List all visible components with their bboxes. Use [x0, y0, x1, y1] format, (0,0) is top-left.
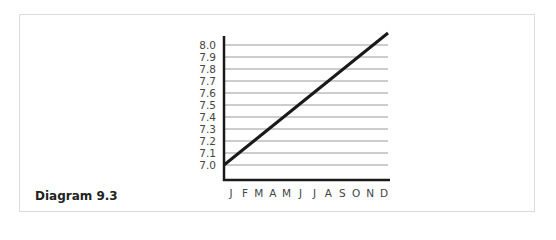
- y-tick-label: 7.8: [199, 63, 216, 75]
- x-tick-label: J: [312, 187, 316, 199]
- y-tick-label: 7.5: [199, 99, 216, 111]
- y-tick-label: 7.4: [199, 111, 216, 123]
- y-tick-label: 7.0: [199, 159, 216, 171]
- x-tick-label: J: [298, 187, 302, 199]
- y-tick-label: 7.9: [199, 51, 216, 63]
- x-tick-label: O: [352, 187, 360, 199]
- x-tick-label: F: [242, 187, 248, 199]
- x-tick-label: D: [380, 187, 388, 199]
- y-tick-label: 7.3: [199, 123, 216, 135]
- x-tick-label: M: [254, 187, 263, 199]
- x-tick-label: A: [325, 187, 333, 199]
- gridlines: [225, 45, 388, 165]
- x-tick-label: S: [339, 187, 346, 199]
- y-tick-label: 7.2: [199, 135, 216, 147]
- x-tick-label: N: [366, 187, 374, 199]
- y-tick-label: 7.7: [199, 75, 216, 87]
- x-axis-ticks: JFMAMJJASOND: [228, 187, 388, 199]
- x-tick-label: J: [228, 187, 232, 199]
- y-tick-label: 7.6: [199, 87, 216, 99]
- y-tick-label: 7.1: [199, 147, 216, 159]
- y-axis-ticks: 8.07.97.87.77.67.57.47.37.27.17.0: [199, 39, 216, 171]
- x-tick-label: A: [269, 187, 277, 199]
- y-tick-label: 8.0: [199, 39, 216, 51]
- data-line: [224, 33, 388, 165]
- diagram-caption: Diagram 9.3: [35, 189, 118, 203]
- x-tick-label: M: [282, 187, 291, 199]
